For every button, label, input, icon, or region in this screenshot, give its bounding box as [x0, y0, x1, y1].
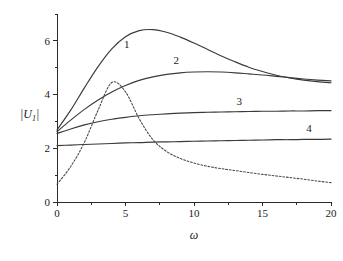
curve-2 [57, 72, 331, 132]
figure-container: |U1| ω 0246 05101520 1234 [0, 0, 343, 261]
y-tick-label: 6 [45, 35, 51, 47]
y-tick-label: 2 [45, 142, 51, 154]
curve-label-4: 4 [306, 122, 312, 134]
line-chart: |U1| ω 0246 05101520 1234 [0, 0, 343, 261]
curve-label-2: 2 [173, 54, 179, 66]
curve-1 [57, 29, 331, 130]
curve-label-1: 1 [124, 38, 130, 50]
x-tick-label: 0 [54, 207, 60, 219]
curve-label-group: 1234 [124, 38, 312, 134]
curve-3 [57, 111, 331, 134]
y-tick-label: 0 [45, 196, 51, 208]
y-axis-ticks: 0246 [45, 14, 58, 208]
x-tick-label: 15 [257, 207, 269, 219]
x-axis-label: ω [190, 228, 198, 242]
curve-4 [57, 139, 331, 145]
curve-label-3: 3 [236, 95, 242, 107]
y-tick-label: 4 [45, 88, 51, 100]
x-tick-label: 10 [189, 207, 201, 219]
x-tick-label: 20 [326, 207, 338, 219]
curve-group [57, 29, 331, 184]
x-axis-ticks: 05101520 [54, 202, 337, 219]
curve-resonance [57, 82, 331, 185]
x-tick-label: 5 [123, 207, 129, 219]
y-axis-label: |U1| [20, 107, 39, 123]
